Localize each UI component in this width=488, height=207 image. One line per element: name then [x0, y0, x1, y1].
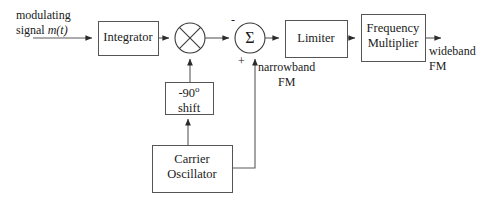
block-phase-shift [166, 83, 214, 115]
narrowband-fm-label: narrowband FM [258, 60, 315, 89]
wire-oscillator-feedback-to-summer [233, 59, 256, 168]
wideband-fm-label: wideband FM [429, 44, 476, 73]
block-integrator [99, 22, 159, 56]
wideband-fm-label-line1: wideband [429, 44, 476, 58]
fm-block-diagram: Integrator Limiter Frequency Multiplier … [0, 0, 488, 207]
summation-sigma-glyph: Σ [235, 30, 265, 46]
block-carrier-oscillator [153, 146, 233, 193]
block-limiter [286, 21, 348, 58]
wideband-fm-label-line2: FM [429, 59, 446, 73]
narrowband-fm-label-line1: narrowband [258, 60, 315, 74]
input-signal-variable: m(t) [48, 23, 68, 37]
summer-minus-sign-text: - [231, 13, 235, 27]
summer-minus-sign: - [231, 14, 235, 26]
input-signal-label: modulating signal m(t) [16, 8, 71, 37]
sigma-symbol: Σ [245, 29, 254, 46]
narrowband-fm-label-line2: FM [278, 75, 295, 89]
input-signal-label-line1: modulating [16, 8, 71, 22]
input-signal-label-line2: signal [16, 23, 48, 37]
summer-plus-sign: + [238, 55, 245, 67]
summer-plus-sign-text: + [238, 54, 245, 68]
block-frequency-multiplier [362, 15, 426, 62]
